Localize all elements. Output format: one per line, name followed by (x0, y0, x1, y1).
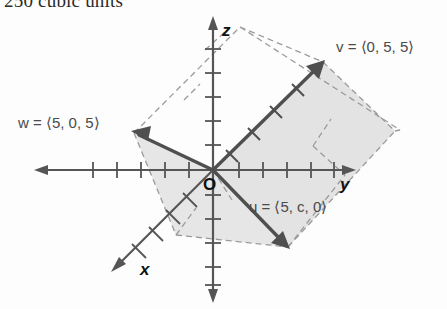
vector-w-label: w = ⟨5, 0, 5⟩ (17, 114, 100, 131)
vector-parallelepiped-figure: z y x O v = ⟨0, 5, 5⟩ w = ⟨5, 0, 5⟩ u = … (0, 0, 447, 309)
y-axis-label: y (339, 175, 351, 194)
figure-page: 250 cubic units (0, 0, 447, 309)
x-axis-label: x (139, 260, 151, 279)
z-axis-arrowhead-up (208, 16, 218, 30)
origin-label: O (203, 175, 216, 194)
x-tick-3 (149, 227, 163, 241)
vector-u-label: u = ⟨5, c, 0⟩ (249, 198, 327, 215)
edge-upper-left-short-2 (184, 84, 200, 100)
vector-v-label: v = ⟨0, 5, 5⟩ (336, 38, 414, 55)
z-axis-arrowhead-down (208, 289, 218, 303)
edge-vu-to-wvu (395, 130, 400, 131)
z-axis-label: z (221, 21, 231, 40)
edge-w-to-wv (134, 27, 240, 133)
x-tick-4 (132, 244, 146, 258)
y-axis-arrowhead-left (34, 165, 48, 175)
edge-wv-to-v (240, 27, 323, 62)
shaded-faces (134, 62, 395, 247)
